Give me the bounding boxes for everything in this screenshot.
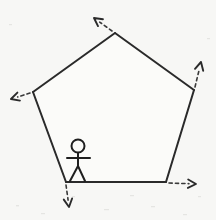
pentagon-diagram-svg bbox=[0, 0, 216, 220]
diagram-canvas: Regular pentagon with exterior-angle ray… bbox=[0, 0, 216, 220]
